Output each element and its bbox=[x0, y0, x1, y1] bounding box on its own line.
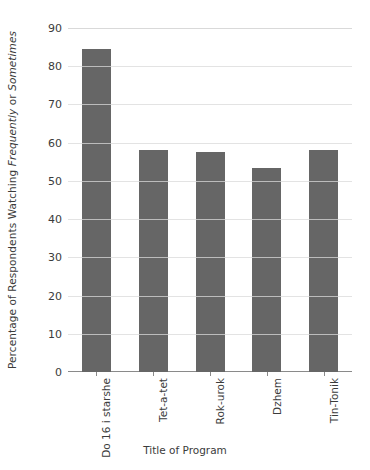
y-axis-tick-label: 70 bbox=[48, 98, 62, 111]
x-axis-tickmark bbox=[267, 372, 268, 376]
y-axis-tick-label: 10 bbox=[48, 327, 62, 340]
y-axis-tick-label: 80 bbox=[48, 60, 62, 73]
bar-chart: Percentage of Respondents Watching Frequ… bbox=[0, 0, 370, 470]
y-axis-tick-label: 30 bbox=[48, 251, 62, 264]
gridline bbox=[68, 66, 352, 67]
x-axis-tickmark bbox=[96, 372, 97, 376]
x-axis-tickmark bbox=[210, 372, 211, 376]
gridline bbox=[68, 143, 352, 144]
y-axis-title-text: Percentage of Respondents Watching Frequ… bbox=[6, 31, 18, 369]
gridline bbox=[68, 296, 352, 297]
gridline bbox=[68, 334, 352, 335]
x-axis-category-label-text: Tin-Tonik bbox=[328, 378, 340, 423]
y-axis-tick-label: 20 bbox=[48, 289, 62, 302]
x-axis-category-label-text: Tet-a-tet bbox=[157, 378, 169, 422]
y-axis-tick-label: 50 bbox=[48, 174, 62, 187]
y-axis-tick-label: 60 bbox=[48, 136, 62, 149]
gridline bbox=[68, 257, 352, 258]
gridline bbox=[68, 104, 352, 105]
x-axis-category-label-text: Dzhem bbox=[271, 378, 283, 415]
y-axis-title: Percentage of Respondents Watching Frequ… bbox=[0, 0, 24, 400]
x-axis-title: Title of Program bbox=[0, 444, 370, 456]
y-axis-tick-label: 40 bbox=[48, 213, 62, 226]
gridline bbox=[68, 219, 352, 220]
x-axis-tickmark bbox=[324, 372, 325, 376]
x-axis-category-label-text: Rok-urok bbox=[214, 378, 226, 424]
y-axis-tick-label: 90 bbox=[48, 22, 62, 35]
gridline bbox=[68, 181, 352, 182]
x-axis-tickmark bbox=[153, 372, 154, 376]
gridlines bbox=[68, 28, 352, 372]
plot-area: 0102030405060708090 Do 16 i starsheTet-a… bbox=[68, 28, 352, 372]
gridline bbox=[68, 28, 352, 29]
y-axis-tick-label: 0 bbox=[55, 366, 62, 379]
